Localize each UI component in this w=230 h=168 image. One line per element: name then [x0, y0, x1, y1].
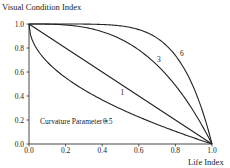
y-axis-ticks: 0.00.20.40.60.81.0 [15, 20, 29, 149]
x-axis-title: Life Index [188, 157, 224, 167]
x-tick-label: 0.8 [171, 146, 181, 155]
x-tick-label: 0.6 [134, 146, 144, 155]
y-tick-label: 0.0 [15, 140, 25, 149]
curvature-parameter-label: Curvature Parameter = [40, 117, 108, 126]
chart: Visual Condition Index 0.00.20.40.60.81.… [0, 0, 230, 168]
y-tick-label: 1.0 [15, 20, 25, 29]
x-tick-label: 0.2 [61, 146, 71, 155]
y-axis-title: Visual Condition Index [2, 2, 82, 12]
curve-label: 1 [121, 88, 125, 97]
y-tick-label: 0.8 [15, 44, 25, 53]
y-tick-label: 0.4 [15, 92, 25, 101]
y-tick-label: 0.2 [15, 116, 25, 125]
x-tick-label: 1.0 [207, 146, 217, 155]
curve-labels: 6310.5 [103, 49, 184, 126]
curve-label: 6 [180, 49, 184, 58]
x-tick-label: 0.0 [24, 146, 34, 155]
curve-label: 3 [157, 55, 161, 64]
y-tick-label: 0.6 [15, 68, 25, 77]
x-axis-ticks: 0.00.20.40.60.81.0 [24, 144, 217, 155]
x-tick-label: 0.4 [98, 146, 108, 155]
